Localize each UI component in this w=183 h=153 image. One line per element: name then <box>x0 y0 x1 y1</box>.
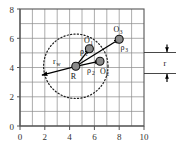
x-tick-label-4: 4 <box>67 132 72 142</box>
marker-object-O2 <box>96 57 104 65</box>
svg-text:2: 2 <box>92 70 95 76</box>
dimension-annotation-r: r <box>144 45 176 83</box>
x-tick-label-0: 0 <box>18 132 23 142</box>
svg-text:r: r <box>53 57 56 66</box>
svg-text:3: 3 <box>125 47 128 53</box>
figure-canvas: 8 6 4 2 0 0 2 4 6 8 10 R O 1 O 2 O 3 ρ 1… <box>0 0 183 153</box>
svg-text:O: O <box>114 25 120 34</box>
label-dimension-r: r <box>164 59 167 68</box>
x-tick-label-8: 8 <box>117 132 122 142</box>
y-tick-label-0: 0 <box>10 122 15 132</box>
svg-text:1: 1 <box>90 40 93 46</box>
marker-object-O3 <box>115 35 123 43</box>
svg-text:2: 2 <box>106 71 109 77</box>
svg-text:ρ: ρ <box>80 47 84 56</box>
x-tick-label-2: 2 <box>43 132 48 142</box>
svg-text:w: w <box>57 61 61 67</box>
x-tick-label-6: 6 <box>92 132 97 142</box>
y-tick-label-2: 2 <box>10 92 15 102</box>
marker-robot-R <box>72 62 80 70</box>
svg-text:O: O <box>84 36 90 45</box>
svg-text:O: O <box>100 67 106 76</box>
svg-text:1: 1 <box>85 51 88 57</box>
y-tick-label-6: 6 <box>10 34 15 44</box>
y-axis <box>17 9 20 126</box>
y-tick-label-8: 8 <box>10 5 15 15</box>
svg-text:3: 3 <box>120 29 123 35</box>
svg-text:ρ: ρ <box>87 66 91 75</box>
x-tick-label-10: 10 <box>140 132 150 142</box>
svg-text:ρ: ρ <box>121 43 125 52</box>
label-R: R <box>71 72 77 81</box>
x-axis <box>20 126 144 130</box>
y-tick-label-4: 4 <box>10 63 15 73</box>
